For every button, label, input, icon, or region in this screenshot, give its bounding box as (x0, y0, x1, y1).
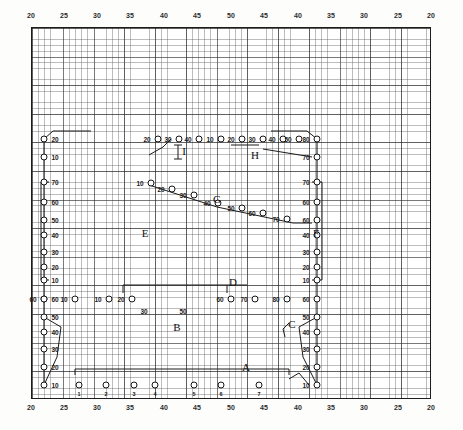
axis-top-tick-5: 45 (193, 12, 201, 19)
axis-bottom-tick-8: 40 (294, 404, 302, 411)
axis-top-tick-12: 20 (427, 12, 435, 19)
axis-top-tick-1: 25 (60, 12, 68, 19)
axis-top-tick-8: 40 (294, 12, 302, 19)
axis-top-tick-6: 50 (227, 12, 235, 19)
axis-bottom-tick-4: 40 (160, 404, 168, 411)
axis-bottom-tick-5: 45 (193, 404, 201, 411)
axis-bottom: 20253035404550454035302520 (0, 404, 463, 418)
axis-top-tick-3: 35 (126, 12, 134, 19)
axis-bottom-tick-6: 50 (227, 404, 235, 411)
axis-bottom-tick-1: 25 (60, 404, 68, 411)
axis-bottom-tick-7: 45 (260, 404, 268, 411)
axis-bottom-tick-2: 30 (93, 404, 101, 411)
axis-bottom-tick-3: 35 (126, 404, 134, 411)
axis-top-tick-9: 35 (327, 12, 335, 19)
axis-top-tick-2: 30 (93, 12, 101, 19)
axis-top-tick-7: 45 (260, 12, 268, 19)
axis-top-tick-4: 40 (160, 12, 168, 19)
axis-bottom-tick-11: 25 (394, 404, 402, 411)
axis-top: 20253035404550454035302520 (0, 12, 463, 26)
graph-paper-frame (31, 27, 431, 399)
axis-top-tick-10: 30 (360, 12, 368, 19)
axis-bottom-tick-12: 20 (427, 404, 435, 411)
axis-top-tick-0: 20 (27, 12, 35, 19)
axis-bottom-tick-0: 20 (27, 404, 35, 411)
axis-top-tick-11: 25 (394, 12, 402, 19)
axis-bottom-tick-10: 30 (360, 404, 368, 411)
diagram-sheet: 20253035404550454035302520 (0, 0, 463, 430)
axis-bottom-tick-9: 35 (327, 404, 335, 411)
